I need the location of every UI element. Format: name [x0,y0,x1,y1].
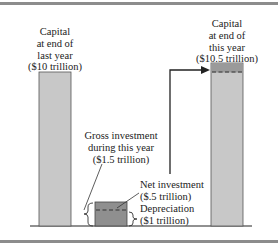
capital-investment-diagram: Capital at end of last year ($10 trillio… [0,0,278,247]
capital-last-year-label: Capital at end of last year ($10 trillio… [28,26,82,73]
net-investment-addition-band [211,64,243,73]
label-line: Gross investment [84,130,157,141]
net-investment-leader [117,193,139,208]
label-line: this year [209,42,245,53]
capital-this-year-label: Capital at end of this year ($10.5 trill… [196,18,258,65]
label-line: last year [37,50,73,61]
net-investment-label: Net investment ($.5 trillion) [140,179,204,203]
depreciation-brace [129,212,137,226]
gross-investment-label: Gross investment during this year ($1.5 … [84,130,157,166]
label-line: Net investment [140,179,204,190]
label-line: ($10.5 trillion) [196,53,258,65]
label-line: ($.5 trillion) [140,191,192,203]
label-line: ($1.5 trillion) [93,154,150,166]
depreciation-label: Depreciation ($1 trillion) [140,203,195,227]
net-investment-arrow-line [170,70,203,174]
label-line: ($10 trillion) [28,61,82,73]
label-line: at end of [209,30,246,41]
label-line: at end of [37,38,74,49]
capital-this-year-bar [211,63,243,226]
gross-investment-bar [95,202,127,226]
label-line: Capital [40,26,70,37]
arrow-head-icon [201,66,210,74]
capital-last-year-bar [39,72,71,226]
label-line: Capital [212,18,242,29]
label-line: ($1 trillion) [140,215,189,227]
label-line: Depreciation [140,203,195,214]
label-line: during this year [88,142,154,153]
